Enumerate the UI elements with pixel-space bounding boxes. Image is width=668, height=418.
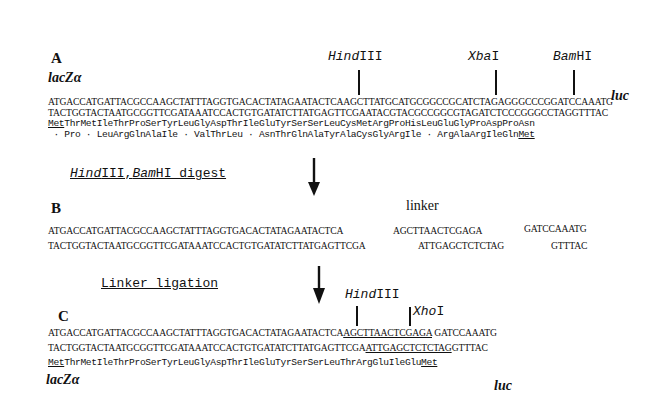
linker-label: linker [406,198,439,214]
down-arrow-2 [311,266,327,306]
reading-frame-2-a: · Pro · LeuArgGlnAlaIle · ValThrLeu · As… [48,129,535,140]
bamhi-site-label-a: BamHI [553,49,592,64]
panel-a-label: A [51,50,62,67]
xhoi-site-label-c: XhoI [413,304,444,319]
panel-b-label: B [51,200,61,217]
bamhi-cut-tick-a [573,70,575,95]
hindiii-site-label-c: HindIII [345,287,400,302]
digest-step-label: HindIII,BamHI digest [70,166,226,181]
hindiii-cut-tick-a [358,70,360,95]
bottom-strand-b-right: GTTTAC [551,240,587,251]
luc-label-a: luc [611,88,629,104]
down-arrow-1 [306,158,322,198]
linker-top-inserted: AGCTTAACTCGAGA [343,327,432,338]
linker-bottom-strand: ATTGAGCTCTCTAG [418,240,504,251]
ligation-step-label: Linker ligation [101,276,218,291]
start-codon-met: Met [48,118,64,129]
top-strand-a: ATGACCATGATTACGCCAAGCTATTTAGGTGACACTATAG… [48,96,613,107]
xhoi-cut-tick-c [409,307,411,326]
top-strand-b-right: GATCCAAATG [524,223,586,234]
bottom-strand-a: TACTGGTACTAATGCGGTTCGATAAATCCACTGTGATATC… [48,107,608,118]
bottom-strand-b-left: TACTGGTACTAATGCGGTTCGATAAATCCACTGTGATATC… [48,240,366,251]
luc-start-met: Met [518,129,534,140]
lacz-alpha-label-c: lacZα [46,372,79,388]
xbai-cut-tick-a [495,70,497,95]
top-strand-c: ATGACCATGATTACGCCAAGCTATTTAGGTGACACTATAG… [48,327,497,338]
luc-label-c: luc [494,378,512,394]
hindiii-site-label-a: HindIII [328,49,383,64]
reading-frame-1-a: MetThrMetIleThrProSerTyrLeuGlyAspThrIleG… [48,118,535,129]
linker-bottom-inserted: ATTGAGCTCTCTAG [366,342,452,353]
hindiii-cut-tick-c [356,306,358,326]
luc-start-met-c: Met [421,357,437,368]
top-strand-b-left: ATGACCATGATTACGCCAAGCTATTTAGGTGACACTATAG… [48,225,343,236]
start-codon-met-c: Met [48,357,64,368]
reading-frame-c: MetThrMetIleThrProSerTyrLeuGlyAspThrIleG… [48,357,437,368]
lacz-alpha-label-a: lacZα [48,70,81,86]
panel-c-label: C [58,308,69,325]
linker-top-strand: AGCTTAACTCGAGA [393,225,482,236]
xbai-site-label-a: XbaI [468,49,499,64]
bottom-strand-c: TACTGGTACTAATGCGGTTCGATAAATCCACTGTGATATC… [48,342,488,353]
